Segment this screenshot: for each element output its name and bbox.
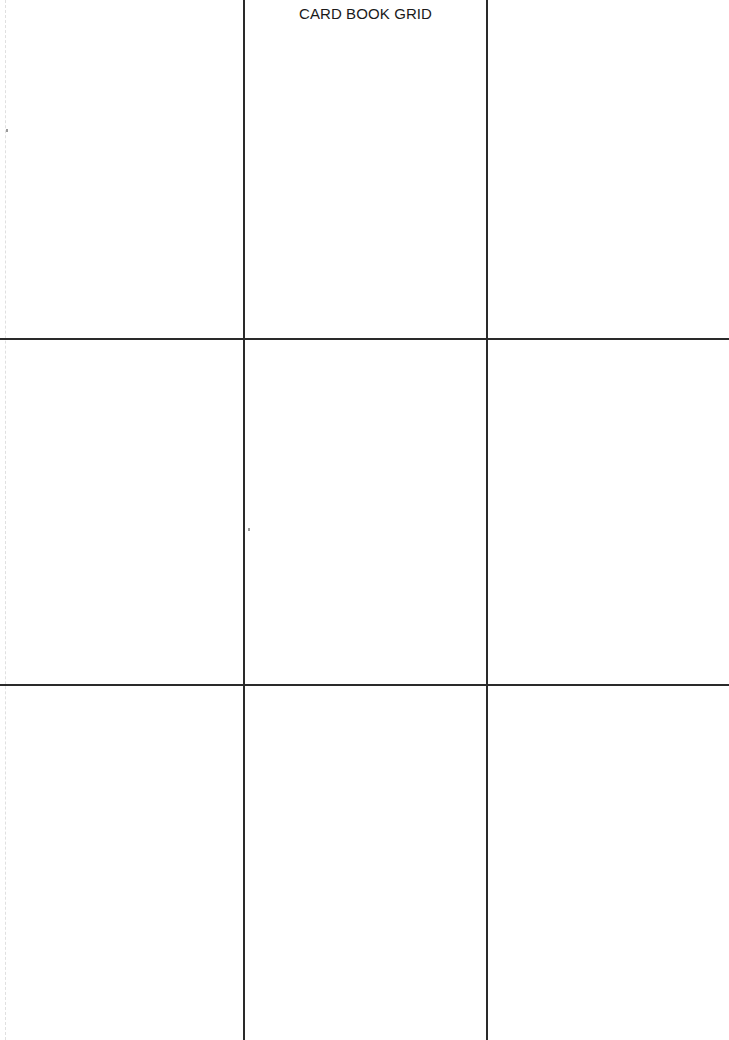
grid-cell-r3-c3 [488,686,729,1040]
speck-mark [6,129,8,132]
grid-cell-r2-c1 [0,340,243,684]
grid-cell-r1-c3 [488,0,729,338]
speck-mark [248,528,250,531]
grid-cell-r2-c3 [488,340,729,684]
grid-cell-r1-c2 [245,0,486,338]
grid-cell-r2-c2 [245,340,486,684]
grid-cell-r3-c2 [245,686,486,1040]
grid-cell-r3-c1 [0,686,243,1040]
grid-cell-r1-c1 [0,0,243,338]
